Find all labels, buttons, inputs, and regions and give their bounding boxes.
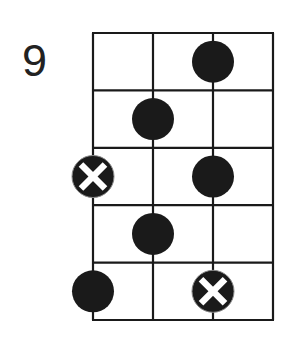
note-dot-icon — [72, 270, 114, 312]
note-dot-icon — [132, 213, 174, 255]
root-note-x-marker — [72, 156, 114, 198]
root-note-x-marker — [192, 270, 234, 312]
note-dot-icon — [132, 98, 174, 140]
note-dot-icon — [192, 41, 234, 83]
note-dot-icon — [192, 156, 234, 198]
grid-lines — [92, 33, 274, 320]
fretboard-grid — [0, 0, 296, 340]
